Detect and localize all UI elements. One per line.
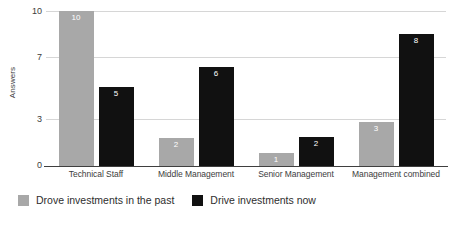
y-axis-tick-labels: 10 7 3 0 <box>10 0 42 225</box>
bar-now-middle-management[interactable]: 6 <box>199 67 234 166</box>
x-tick-label-middle-management: Middle Management <box>146 169 246 179</box>
bar-past-middle-management[interactable]: 2 <box>159 138 194 166</box>
bar-chart: Answers 10 7 3 0 10 5 2 6 <box>0 0 454 225</box>
y-tick-label: 3 <box>20 115 42 124</box>
legend-item-label: Drove investments in the past <box>36 194 174 206</box>
bar-value-label: 5 <box>114 90 118 98</box>
legend-item-now[interactable]: Drive investments now <box>192 194 316 206</box>
bar-value-label: 8 <box>414 37 418 45</box>
chart-legend: Drove investments in the past Drive inve… <box>18 194 316 206</box>
x-tick-label-technical-staff: Technical Staff <box>46 169 146 179</box>
bar-past-technical-staff[interactable]: 10 <box>59 11 94 166</box>
bar-group-middle-management: 2 6 <box>146 11 246 166</box>
x-tick-label-senior-management: Senior Management <box>246 169 346 179</box>
bar-now-senior-management[interactable]: 2 <box>299 137 334 166</box>
bar-value-label: 6 <box>214 70 218 78</box>
bar-value-label: 2 <box>174 141 178 149</box>
legend-swatch-icon <box>18 195 29 206</box>
y-tick-label: 7 <box>20 53 42 62</box>
bar-value-label: 1 <box>274 156 278 164</box>
x-axis-line <box>44 166 448 167</box>
bar-now-management-combined[interactable]: 8 <box>399 34 434 166</box>
x-axis-tick-labels: Technical Staff Middle Management Senior… <box>46 169 446 179</box>
bar-groups: 10 5 2 6 1 2 3 <box>46 11 446 166</box>
legend-item-past[interactable]: Drove investments in the past <box>18 194 174 206</box>
bar-group-technical-staff: 10 5 <box>46 11 146 166</box>
y-tick-label: 10 <box>20 7 42 16</box>
legend-item-label: Drive investments now <box>210 194 316 206</box>
bar-value-label: 10 <box>72 14 81 22</box>
bar-past-senior-management[interactable]: 1 <box>259 153 294 166</box>
y-tick-label: 0 <box>20 161 42 170</box>
legend-swatch-icon <box>192 195 203 206</box>
bar-past-management-combined[interactable]: 3 <box>359 122 394 166</box>
bar-value-label: 2 <box>314 140 318 148</box>
bar-group-senior-management: 1 2 <box>246 11 346 166</box>
bar-group-management-combined: 3 8 <box>346 11 446 166</box>
bar-value-label: 3 <box>374 125 378 133</box>
x-tick-label-management-combined: Management combined <box>346 169 446 179</box>
bar-now-technical-staff[interactable]: 5 <box>99 87 134 166</box>
